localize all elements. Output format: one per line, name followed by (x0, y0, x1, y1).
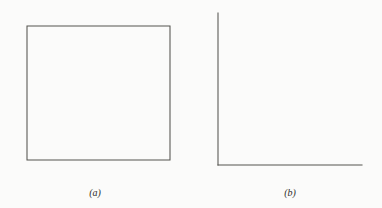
panel-a-frame (27, 26, 170, 160)
panel-a-axes (27, 26, 170, 160)
panel-a-caption: (a) (89, 187, 101, 199)
figure-container: (a) (b) (0, 0, 382, 208)
scatter-figure: (a) (b) (0, 0, 382, 208)
panel-b: (b) (218, 13, 362, 199)
panel-b-caption: (b) (284, 187, 296, 199)
panel-a: (a) (27, 26, 170, 199)
panel-b-axes (218, 13, 362, 165)
